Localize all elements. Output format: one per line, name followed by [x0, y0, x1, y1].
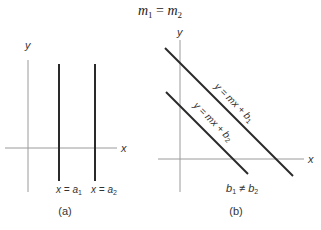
x-axis-label: x [307, 153, 314, 165]
x-axis-label: x [120, 142, 127, 154]
y-axis-label: y [176, 26, 184, 38]
title-equation: m1 = m2 [138, 3, 182, 20]
line-b2-label: y = mx + b2 [190, 99, 235, 144]
y-axis-label: y [24, 39, 32, 51]
panel-b: y x y = mx + b1 y = mx + b2 b1 ≠ b2 (b) [158, 26, 314, 217]
line-b1 [165, 48, 293, 176]
line-a1-label: x = a1 [55, 184, 82, 196]
condition-label: b1 ≠ b2 [226, 182, 258, 195]
caption-b: (b) [229, 205, 242, 217]
line-a2-label: x = a2 [90, 184, 117, 196]
panel-a: y x x = a1 x = a2 (a) [5, 39, 127, 217]
parallel-lines-diagram: m1 = m2 y x x = a1 x = a2 (a) y x y = mx… [0, 0, 321, 230]
caption-a: (a) [58, 205, 71, 217]
